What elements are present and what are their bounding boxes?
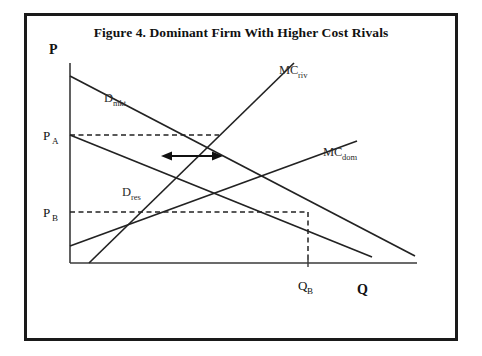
price-a-label: P A <box>43 128 59 146</box>
quantity-gap-arrow <box>161 152 223 161</box>
quantity-b-label: Q B <box>298 278 313 296</box>
price-a-base: P <box>43 128 50 143</box>
figure-frame: Figure 4. Dominant Firm With Higher Cost… <box>24 13 458 341</box>
label-mc-dom-base: MC <box>323 145 342 159</box>
arrow-head-left <box>161 152 172 161</box>
quantity-b-sub: B <box>307 286 313 296</box>
curve-mc-riv <box>89 63 294 263</box>
label-mc-riv-sub: riv <box>298 70 308 80</box>
label-d-mkt: D mkt <box>104 91 127 108</box>
price-b-label: P B <box>43 205 58 223</box>
label-d-res-sub: res <box>131 192 141 202</box>
label-mc-riv: MC riv <box>279 63 308 80</box>
label-d-res: D res <box>122 185 141 202</box>
economics-plot: P Q P A P B Q B D mkt D res MC riv <box>27 16 461 344</box>
label-d-mkt-base: D <box>104 91 113 105</box>
y-axis-label: P <box>49 42 58 57</box>
label-mc-dom-sub: dom <box>342 152 358 162</box>
price-b-base: P <box>43 205 50 220</box>
x-axis-label: Q <box>357 282 368 297</box>
label-d-res-base: D <box>122 185 131 199</box>
price-a-sub: A <box>52 136 59 146</box>
label-d-mkt-sub: mkt <box>113 98 127 108</box>
label-mc-dom: MC dom <box>323 145 358 162</box>
label-mc-riv-base: MC <box>279 63 298 77</box>
price-b-sub: B <box>52 213 58 223</box>
